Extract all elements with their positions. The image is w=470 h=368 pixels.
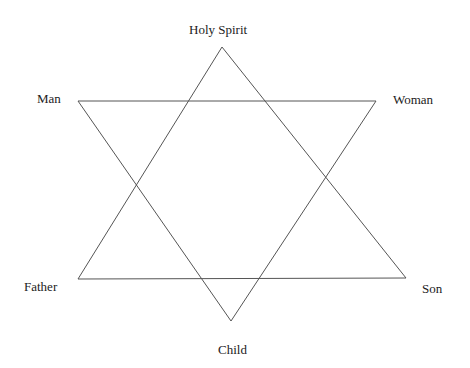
label-son: Son	[422, 282, 442, 296]
label-holy-spirit: Holy Spirit	[189, 23, 247, 37]
label-man: Man	[37, 92, 61, 106]
label-father: Father	[24, 280, 57, 294]
downward-triangle	[78, 101, 376, 321]
hexagram-diagram	[0, 0, 470, 368]
label-child: Child	[218, 343, 247, 357]
upward-triangle	[78, 47, 406, 279]
label-woman: Woman	[393, 93, 433, 107]
